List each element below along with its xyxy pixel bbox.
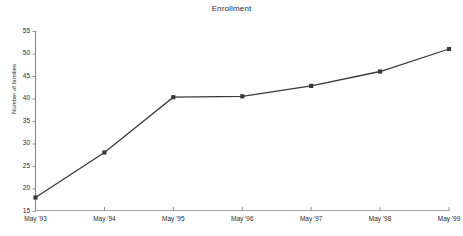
enrollment-line-chart: Enrollment Number of families 1520253035…	[0, 0, 463, 236]
data-point-3	[240, 94, 244, 98]
axis-lines	[36, 31, 450, 211]
plot-area	[0, 0, 463, 236]
data-point-1	[102, 150, 106, 154]
data-point-6	[447, 47, 451, 51]
data-point-2	[171, 95, 175, 99]
data-point-0	[33, 195, 37, 199]
series-markers	[33, 47, 451, 200]
data-point-5	[378, 69, 382, 73]
series-line-enrollment	[36, 49, 450, 198]
data-point-4	[309, 84, 313, 88]
